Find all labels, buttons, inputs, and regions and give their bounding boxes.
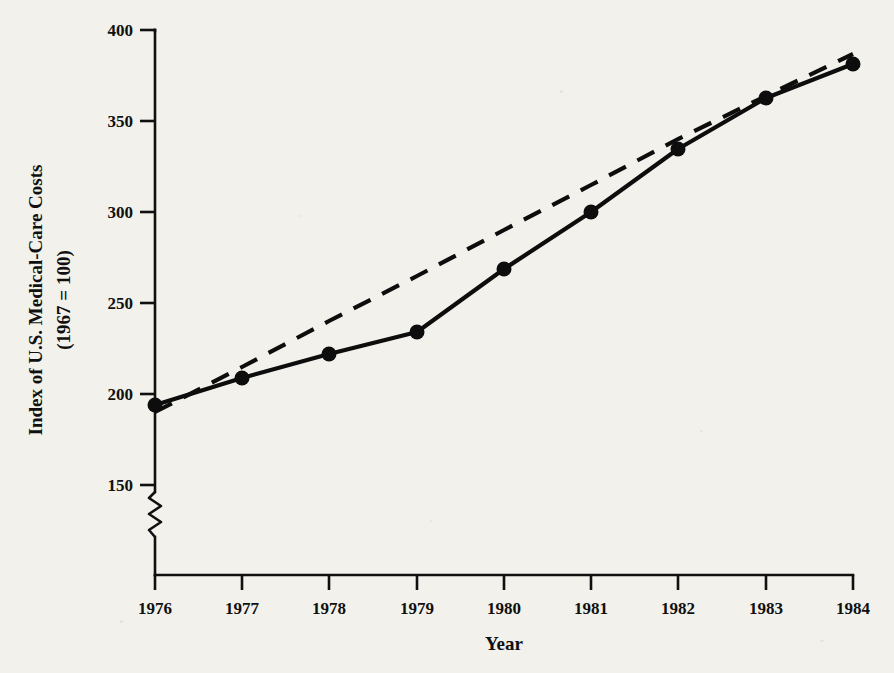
data-point-1978 (322, 347, 337, 362)
y-axis-title-line2: (1967 = 100) (53, 250, 75, 349)
y-tick-label-300: 300 (108, 203, 134, 222)
data-point-1977 (235, 371, 250, 386)
x-tick-label-1979: 1979 (400, 599, 434, 618)
y-tick-label-400: 400 (108, 21, 134, 40)
x-tick-label-1980: 1980 (487, 599, 521, 618)
data-point-1983 (759, 91, 774, 106)
x-axis-title: Year (485, 633, 524, 654)
data-point-1980 (497, 262, 512, 277)
data-point-1979 (410, 325, 425, 340)
y-axis-break-zigzag (149, 492, 161, 537)
y-axis-title-line1: Index of U.S. Medical-Care Costs (25, 165, 46, 436)
x-tick-label-1976: 1976 (138, 599, 172, 618)
x-tick-label-1983: 1983 (749, 599, 783, 618)
x-tick-label-1978: 1978 (312, 599, 346, 618)
y-tick-label-250: 250 (108, 294, 134, 313)
x-tick-label-1981: 1981 (574, 599, 608, 618)
series-medical-care-index-line (155, 64, 853, 405)
x-tick-label-1982: 1982 (661, 599, 695, 618)
x-tick-label-1977: 1977 (225, 599, 260, 618)
y-tick-label-150: 150 (108, 476, 134, 495)
data-point-1982 (671, 142, 686, 157)
data-point-1984 (846, 57, 861, 72)
chart-figure: 400 350 300 250 200 150 1976 1977 1978 1… (0, 0, 894, 673)
y-tick-label-200: 200 (108, 385, 134, 404)
y-tick-label-350: 350 (108, 112, 134, 131)
chart-svg: 400 350 300 250 200 150 1976 1977 1978 1… (0, 0, 894, 673)
data-point-1981 (584, 205, 599, 220)
data-point-1976 (148, 398, 163, 413)
x-tick-label-1984: 1984 (836, 599, 871, 618)
